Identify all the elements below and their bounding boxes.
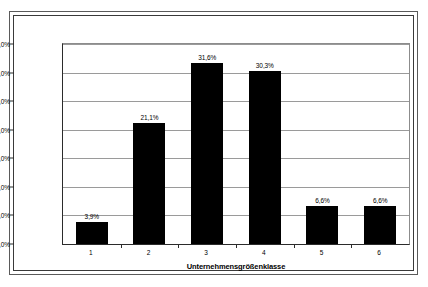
bar-value-label: 6,6% (373, 197, 387, 204)
bar[interactable] (76, 222, 108, 244)
bar[interactable] (249, 71, 281, 244)
y-axis-tickmark (10, 44, 14, 45)
bar[interactable] (191, 63, 223, 244)
y-axis-tickmark (10, 101, 14, 102)
y-axis-tickmark (10, 158, 14, 159)
plot-area: 3,9%21,1%31,6%30,3%6,6%6,6% (62, 43, 410, 245)
y-axis-tickmark (10, 129, 14, 130)
bar-value-label: 21,1% (141, 114, 159, 121)
bar-slot: 6,6% (294, 44, 352, 244)
y-axis-tick-label: 30,0% (0, 69, 10, 76)
bar-slot: 31,6% (178, 44, 236, 244)
x-axis-tick-label: 5 (320, 249, 324, 256)
bar-value-label: 3,9% (85, 213, 99, 220)
x-axis-title: Unternehmensgrößenklasse (62, 262, 410, 271)
bar-value-label: 6,6% (315, 197, 329, 204)
y-axis-tickmark (10, 72, 14, 73)
chart-figure: 0,0%5,0%10,0%15,0%20,0%25,0%30,0%35,0% 3… (0, 0, 428, 287)
y-axis-tick-label: 35,0% (0, 41, 10, 48)
bar-value-label: 31,6% (198, 54, 216, 61)
bar-slot: 21,1% (121, 44, 179, 244)
x-axis-tick-label: 2 (147, 249, 151, 256)
x-axis-tick-label: 4 (262, 249, 266, 256)
bar-slot: 30,3% (236, 44, 294, 244)
bar[interactable] (133, 123, 165, 244)
x-axis-tick-label: 6 (377, 249, 381, 256)
y-axis-tick-label: 15,0% (0, 155, 10, 162)
bar[interactable] (306, 206, 338, 244)
bar-value-label: 30,3% (256, 62, 274, 69)
bar-slot: 6,6% (351, 44, 409, 244)
x-axis-tick-label: 1 (89, 249, 93, 256)
y-axis-tickmark (10, 186, 14, 187)
y-axis-tickmark (10, 215, 14, 216)
y-axis-tick-label: 0,0% (0, 241, 10, 248)
y-axis-tick-label: 5,0% (0, 212, 10, 219)
y-axis-tick-label: 25,0% (0, 98, 10, 105)
bar[interactable] (364, 206, 396, 244)
y-axis-tickmark (10, 244, 14, 245)
y-axis-tick-label: 10,0% (0, 183, 10, 190)
y-axis: 0,0%5,0%10,0%15,0%20,0%25,0%30,0%35,0% (14, 16, 62, 270)
chart-border: 0,0%5,0%10,0%15,0%20,0%25,0%30,0%35,0% 3… (13, 15, 414, 271)
y-axis-tick-label: 20,0% (0, 126, 10, 133)
bar-slot: 3,9% (63, 44, 121, 244)
x-axis-tick-label: 3 (204, 249, 208, 256)
x-axis-tick-labels: 123456 (62, 247, 410, 261)
